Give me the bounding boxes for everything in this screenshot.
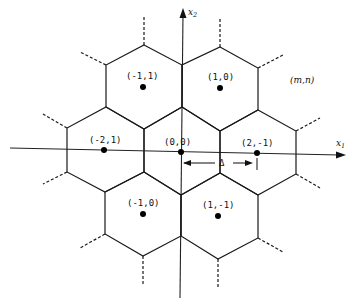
delta-right-arrowhead-icon xyxy=(245,160,253,166)
label-minus1-1: (-1,1) xyxy=(126,71,159,81)
point-1-0 xyxy=(217,85,223,91)
label-minus1-0: (-1,0) xyxy=(127,198,160,208)
point-minus2-1 xyxy=(101,147,107,153)
point-minus1-1 xyxy=(140,84,146,90)
x1-axis-label: x1 xyxy=(336,138,345,150)
x1-axis xyxy=(10,148,340,155)
point-2-minus1 xyxy=(254,150,260,156)
label-2-minus1: (2,-1) xyxy=(241,138,274,148)
point-1-minus1 xyxy=(215,213,221,219)
delta-left-arrowhead-icon xyxy=(183,160,191,166)
x2-axis-label: x2 xyxy=(188,7,197,19)
label-1-0: (1,0) xyxy=(207,72,234,82)
label-minus2-1: (-2,1) xyxy=(89,135,122,145)
x2-arrowhead-icon xyxy=(180,8,187,18)
delta-label: Δ xyxy=(219,158,225,168)
x2-axis xyxy=(180,14,183,298)
point-labels: (-1,1) (1,0) (-2,1) (0,0) (2,-1) (-1,0) … xyxy=(89,71,315,210)
label-generic-m-n: (m,n) xyxy=(290,75,315,85)
label-0-0: (0,0) xyxy=(164,137,191,147)
hexagonal-lattice-diagram: x1 x2 xyxy=(0,0,353,308)
x1-arrowhead-icon xyxy=(336,152,346,159)
label-1-minus1: (1,-1) xyxy=(202,200,235,210)
point-0-0 xyxy=(178,149,184,155)
point-minus1-0 xyxy=(140,211,146,217)
